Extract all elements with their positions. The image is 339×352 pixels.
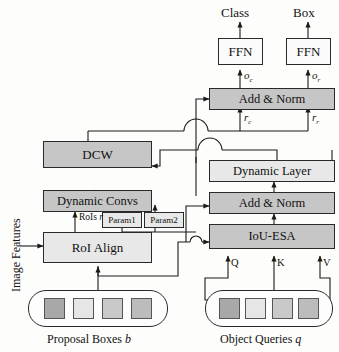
node-add-norm-top-label: Add & Norm <box>239 93 306 106</box>
edge-label-oc: oc <box>244 70 253 84</box>
edge-label-rc: rc <box>244 112 251 126</box>
node-roi-align[interactable]: RoI Align <box>43 232 152 263</box>
node-dcw[interactable]: DCW <box>43 141 152 168</box>
query-chip-3 <box>272 298 293 319</box>
edge-label-rr: rr <box>312 112 319 126</box>
query-chip-1 <box>219 298 240 319</box>
group-object-queries[interactable] <box>205 290 333 327</box>
diagram-canvas: Class Box FFN FFN Add & Norm DCW Dynamic… <box>0 0 339 352</box>
side-label-image-features: Image Features <box>10 218 22 292</box>
node-iou-esa-label: IoU-ESA <box>248 230 295 243</box>
query-chip-2 <box>245 298 266 319</box>
edge-into-dcw-right <box>152 150 198 166</box>
node-iou-esa[interactable]: IoU-ESA <box>209 224 335 249</box>
output-label-class: Class <box>221 6 249 19</box>
node-param1[interactable]: Param1 <box>102 212 142 228</box>
node-dcw-label: DCW <box>82 148 112 161</box>
line-hop-3 <box>190 236 202 242</box>
node-param2-label: Param2 <box>150 216 178 225</box>
node-dynamic-layer-label: Dynamic Layer <box>233 165 311 178</box>
node-dynamic-convs-label: Dynamic Convs <box>57 195 138 208</box>
node-add-norm-bottom-label: Add & Norm <box>239 197 306 210</box>
node-roi-align-label: RoI Align <box>72 241 124 254</box>
proposal-chip-1 <box>44 298 65 319</box>
edge-prop-to-right-col <box>178 242 190 252</box>
caption-object-queries: Object Queries q <box>220 333 301 345</box>
output-label-box: Box <box>293 6 315 19</box>
line-hop-2 <box>198 138 222 150</box>
edge-label-v: V <box>323 258 331 269</box>
node-dynamic-layer[interactable]: Dynamic Layer <box>209 160 335 182</box>
node-ffn-box-label: FFN <box>297 45 321 58</box>
node-ffn-box[interactable]: FFN <box>286 38 331 65</box>
proposal-chip-2 <box>73 298 94 319</box>
query-chip-4 <box>298 298 319 319</box>
proposal-chip-3 <box>102 298 123 319</box>
node-param1-label: Param1 <box>108 216 136 225</box>
node-add-norm-top[interactable]: Add & Norm <box>209 88 335 110</box>
edge-label-k: K <box>277 258 285 269</box>
caption-proposal-boxes: Proposal Boxes b <box>47 333 131 345</box>
node-ffn-class[interactable]: FFN <box>218 38 263 65</box>
group-proposal-boxes[interactable] <box>28 290 168 327</box>
edge-label-q: Q <box>231 258 239 269</box>
node-add-norm-bottom[interactable]: Add & Norm <box>209 192 335 214</box>
edge-label-or: or <box>312 70 320 84</box>
node-param2[interactable]: Param2 <box>144 212 184 228</box>
node-ffn-class-label: FFN <box>229 45 253 58</box>
edge-label-rois: RoIs r <box>79 213 103 223</box>
edge-dynlayer-up <box>222 150 277 160</box>
proposal-chip-4 <box>131 298 152 319</box>
node-dynamic-convs[interactable]: Dynamic Convs <box>43 190 152 212</box>
